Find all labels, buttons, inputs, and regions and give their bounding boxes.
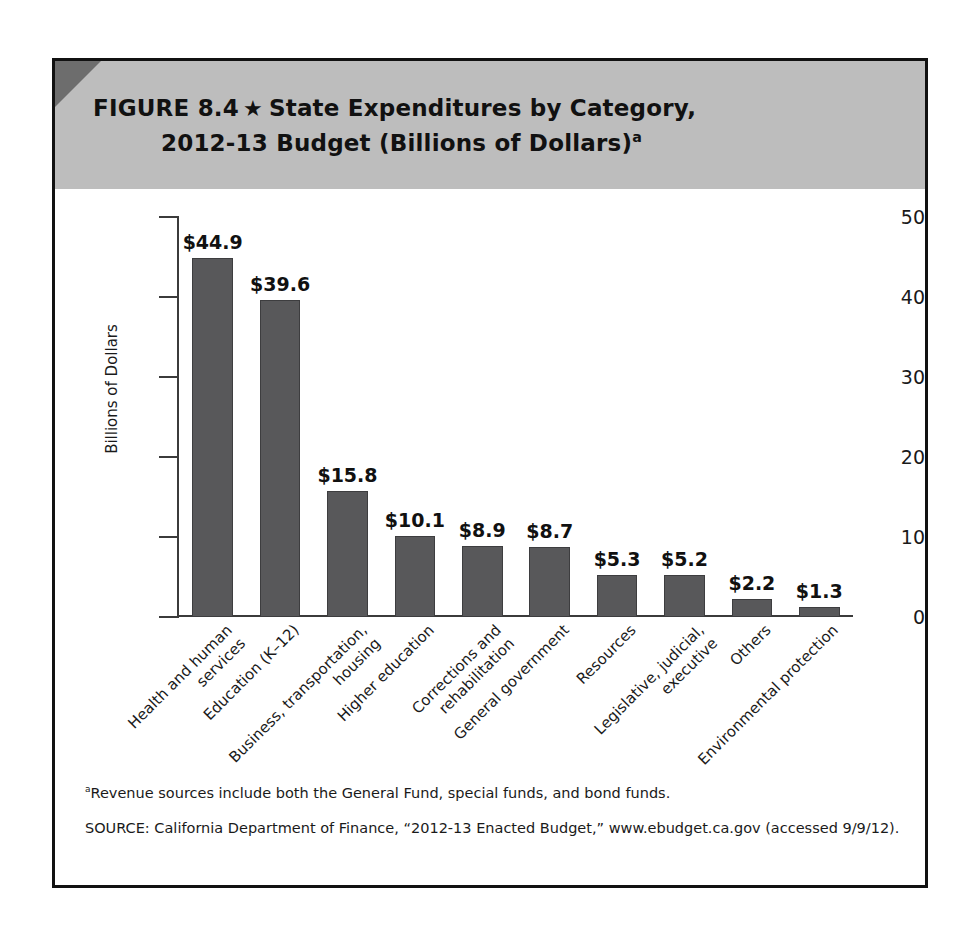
bar-item: $39.6 <box>260 217 300 617</box>
figure-title-line-1: FIGURE 8.4★State Expenditures by Categor… <box>93 91 905 126</box>
y-axis-tick <box>159 216 179 218</box>
bar-item: $8.9 <box>462 217 502 617</box>
figure-container: FIGURE 8.4★State Expenditures by Categor… <box>52 58 928 888</box>
bar-value-label: $5.2 <box>638 548 730 570</box>
y-axis-tick <box>159 456 179 458</box>
y-axis-title: Billions of Dollars <box>103 289 121 489</box>
source-note: SOURCE: California Department of Finance… <box>85 819 901 839</box>
bar-item: $5.3 <box>597 217 637 617</box>
bar <box>462 546 502 617</box>
bar-item: $8.7 <box>529 217 569 617</box>
bar <box>529 547 569 617</box>
figure-title-text-2: 2012-13 Budget (Billions of Dollars) <box>161 130 632 156</box>
chart-plot-area: Billions of Dollars 01020304050 $44.9$39… <box>55 189 925 809</box>
bar-value-label: $39.6 <box>234 273 326 295</box>
figure-title-text-1: State Expenditures by Category, <box>269 95 696 121</box>
y-axis-tick <box>159 536 179 538</box>
bar-value-label: $44.9 <box>166 231 258 253</box>
star-icon: ★ <box>239 96 269 121</box>
y-axis-tick <box>159 376 179 378</box>
bar-item: $1.3 <box>799 217 839 617</box>
bar-item: $2.2 <box>732 217 772 617</box>
figure-label: FIGURE 8.4 <box>93 95 239 121</box>
bar <box>597 575 637 617</box>
bar-value-label: $8.7 <box>503 520 595 542</box>
bar <box>732 599 772 617</box>
x-axis-category-labels: Health and humanservicesEducation (K–12)… <box>179 621 853 801</box>
y-axis-tick <box>159 296 179 298</box>
bar <box>327 491 367 617</box>
bar-value-label: $15.8 <box>301 464 393 486</box>
bar-item: $44.9 <box>192 217 232 617</box>
footnote-body: Revenue sources include both the General… <box>91 785 671 801</box>
bar-item: $10.1 <box>395 217 435 617</box>
bar-item: $5.2 <box>664 217 704 617</box>
figure-header-band: FIGURE 8.4★State Expenditures by Categor… <box>55 61 925 189</box>
y-axis-tick <box>159 616 179 618</box>
bar <box>192 258 232 617</box>
bar <box>395 536 435 617</box>
bar <box>799 607 839 617</box>
figure-title-superscript: a <box>632 129 642 145</box>
figure-notes: aRevenue sources include both the Genera… <box>85 784 901 839</box>
bar <box>664 575 704 617</box>
bar-value-label: $1.3 <box>773 580 865 602</box>
figure-title: FIGURE 8.4★State Expenditures by Categor… <box>93 91 905 161</box>
bar-series: $44.9$39.6$15.8$10.1$8.9$8.7$5.3$5.2$2.2… <box>179 217 853 617</box>
figure-title-line-2: 2012-13 Budget (Billions of Dollars)a <box>93 126 905 161</box>
bar-item: $15.8 <box>327 217 367 617</box>
bar <box>260 300 300 617</box>
footnote: aRevenue sources include both the Genera… <box>85 784 901 804</box>
